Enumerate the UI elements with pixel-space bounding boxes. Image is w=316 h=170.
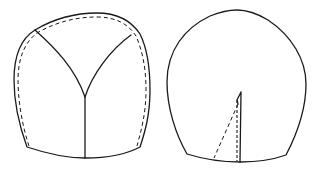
left-piece-y-seam-left [35, 30, 85, 97]
right-piece-dart-dashed-left [214, 104, 238, 158]
right-piece-outline [167, 10, 306, 162]
right-piece-dart-solid [237, 92, 241, 162]
left-piece-outline [14, 13, 150, 158]
left-piece-y-seam-right [85, 35, 131, 97]
left-piece-seam-allowance [18, 17, 146, 146]
right-piece [167, 10, 306, 162]
left-piece [14, 13, 150, 158]
pattern-diagram [0, 0, 316, 170]
